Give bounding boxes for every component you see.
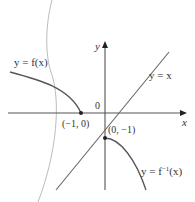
identity-label: y = x	[149, 69, 172, 81]
origin-label: 0	[95, 100, 100, 111]
f-inverse-label: y = f−1(x)	[141, 165, 182, 178]
mirror-curve	[38, 0, 56, 202]
f-curve	[10, 72, 81, 113]
point-a-label: (−1, 0)	[62, 118, 89, 130]
y-axis-label: y	[94, 40, 100, 52]
f-label: y = f(x)	[14, 56, 48, 69]
point-neg1-0	[79, 111, 83, 115]
point-b-label: (0, −1)	[108, 124, 135, 136]
function-inverse-diagram: y = f(x) y = x y = f−1(x) (−1, 0) (0, −1…	[0, 0, 195, 202]
y-axis-arrow-icon	[102, 41, 108, 48]
point-0-neg1	[103, 136, 107, 140]
f-inverse-curve	[105, 138, 146, 190]
x-axis-label: x	[181, 116, 187, 128]
